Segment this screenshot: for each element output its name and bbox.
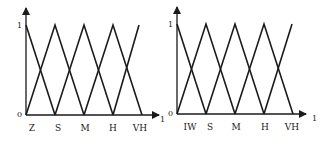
label-vh: VH [284, 122, 299, 132]
label-h: H [109, 123, 117, 133]
label-s: S [207, 122, 213, 132]
y-tick-0: 0 [168, 109, 173, 118]
membership-lines [177, 24, 293, 114]
label-m: M [80, 123, 89, 133]
membership-lines [26, 25, 142, 115]
label-iw: IW [184, 122, 198, 132]
label-z: Z [29, 123, 35, 133]
label-h: H [261, 122, 269, 132]
label-m: M [231, 122, 240, 132]
membership-charts: 1 0 1 Z S M H VH 1 0 1 IW S M H VH [0, 0, 332, 141]
y-tick-1: 1 [17, 21, 22, 30]
chart-right: 1 0 1 IW S M H VH [168, 7, 317, 132]
label-vh: VH [132, 123, 147, 133]
x-axis-end-label: 1 [160, 115, 165, 124]
chart-left: 1 0 1 Z S M H VH [17, 8, 165, 133]
y-tick-1: 1 [168, 20, 173, 29]
label-s: S [55, 123, 61, 133]
x-axis-end-label: 1 [312, 114, 317, 123]
y-tick-0: 0 [17, 110, 22, 119]
